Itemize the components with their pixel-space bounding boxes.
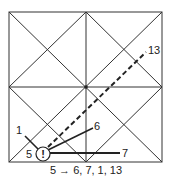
line-to-13 [48,52,146,147]
caption: 5 → 6, 7, 1, 13 [50,164,122,176]
grid-diagram: ! 5 1 6 7 13 5 → 6, 7, 1, 13 [0,0,170,178]
label-7: 7 [122,147,128,159]
center-dot [84,85,88,89]
exclamation-icon: ! [41,148,45,160]
label-1: 1 [16,124,22,136]
label-6: 6 [94,120,100,132]
label-origin-5: 5 [26,148,32,160]
label-13: 13 [148,44,160,56]
